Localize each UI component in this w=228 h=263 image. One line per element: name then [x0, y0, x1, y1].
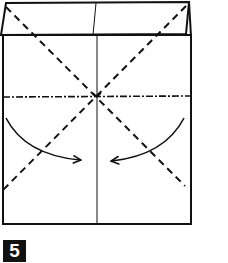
- flap-edge: [189, 2, 191, 36]
- step-number-badge: 5: [3, 240, 26, 262]
- origami-diagram: [0, 0, 228, 263]
